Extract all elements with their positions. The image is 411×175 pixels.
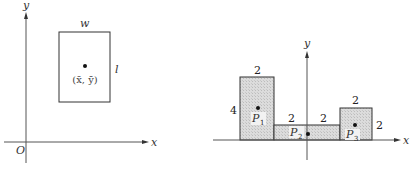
left-figure: y x O w l (x̄, ȳ)	[4, 0, 158, 163]
origin-label: O	[16, 144, 25, 157]
centroid-dot	[83, 64, 87, 68]
p2-sub: 2	[298, 133, 302, 141]
p2-dot	[306, 132, 310, 136]
left-x-arrow-icon	[142, 140, 149, 144]
left-y-arrow-icon	[24, 12, 28, 19]
length-label: l	[115, 63, 119, 76]
p1-label: P	[251, 112, 260, 125]
p1-side-label: 4	[230, 104, 237, 117]
width-label: w	[80, 17, 90, 30]
left-x-label: x	[151, 136, 158, 149]
p1-sub: 1	[260, 119, 264, 127]
p1-dot	[256, 106, 260, 110]
p3-sub: 3	[354, 135, 358, 143]
p2-label: P	[289, 126, 298, 139]
right-y-arrow-icon	[305, 51, 309, 58]
right-figure: x y 2 4 P 1 2 2 P 2 2 2 P 3	[213, 37, 410, 160]
p3-side-label: 2	[376, 119, 383, 132]
right-y-label: y	[303, 37, 311, 50]
right-x-label: x	[403, 134, 410, 147]
p3-dot	[353, 123, 357, 127]
right-x-arrow-icon	[394, 138, 401, 142]
p2-top-left-label: 2	[288, 112, 295, 125]
p3-label: P	[345, 128, 354, 141]
p1-top-label: 2	[254, 64, 261, 77]
p2-top-right-label: 2	[320, 112, 327, 125]
figure-canvas: y x O w l (x̄, ȳ) x y 2 4 P 1 2 2	[0, 0, 411, 175]
centroid-label: (x̄, ȳ)	[72, 74, 98, 85]
left-y-label: y	[22, 0, 30, 12]
p3-top-label: 2	[352, 94, 359, 107]
